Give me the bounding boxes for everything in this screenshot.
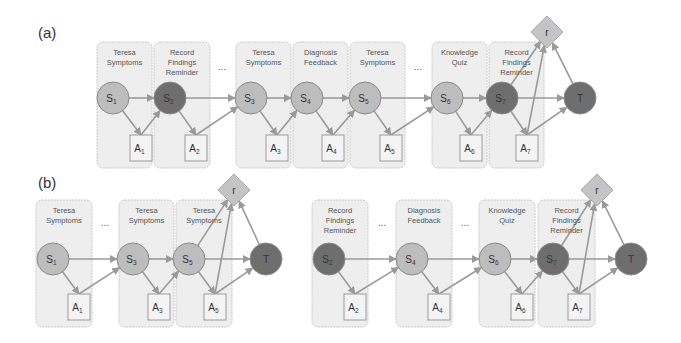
- column-title: Knowledge: [488, 206, 525, 215]
- dbn-diagram: (a)TeresaSymptomsRecordFindingsReminderT…: [0, 0, 681, 343]
- ellipsis: ...: [218, 61, 226, 72]
- column-title: Teresa: [193, 206, 216, 215]
- state-label-T: T: [577, 93, 583, 104]
- column-title: Findings: [326, 216, 355, 225]
- panel-label: (b): [38, 174, 56, 191]
- column-title: Findings: [168, 58, 197, 67]
- column-title: Symptoms: [186, 216, 222, 225]
- column-title: Findings: [552, 216, 581, 225]
- column-title: Teresa: [135, 206, 158, 215]
- column-title: Record: [554, 206, 578, 215]
- column-title: Reminder: [324, 226, 357, 235]
- column-title: Symptoms: [360, 58, 396, 67]
- column-title: Record: [170, 48, 194, 57]
- column-title: Teresa: [366, 48, 389, 57]
- column-title: Record: [504, 48, 528, 57]
- column-title: Reminder: [166, 68, 199, 77]
- column-title: Reminder: [500, 68, 533, 77]
- ellipsis: ...: [461, 217, 469, 228]
- edge-T-to-r: [602, 201, 624, 245]
- state-label-T: T: [628, 254, 634, 265]
- column-title: Symptoms: [246, 58, 282, 67]
- panel-label: (a): [38, 24, 56, 41]
- column-title: Teresa: [252, 48, 275, 57]
- edge-T-to-r: [552, 43, 573, 84]
- column-title: Symptoms: [46, 216, 82, 225]
- column-title: Symptoms: [129, 216, 165, 225]
- column-title: Feedback: [304, 58, 337, 67]
- column-title: Quiz: [499, 216, 515, 225]
- column-title: Diagnosis: [304, 48, 337, 57]
- column-title: Feedback: [408, 216, 441, 225]
- column-title: Diagnosis: [408, 206, 441, 215]
- ellipsis: ...: [378, 217, 386, 228]
- ellipsis: ...: [101, 217, 109, 228]
- column-title: Symptoms: [107, 58, 143, 67]
- column-title: Teresa: [113, 48, 136, 57]
- column-title: Record: [328, 206, 352, 215]
- state-label-T: T: [263, 254, 269, 265]
- column-title: Teresa: [53, 206, 76, 215]
- column-title: Findings: [502, 58, 531, 67]
- ellipsis: ...: [414, 61, 422, 72]
- column-title: Reminder: [550, 226, 583, 235]
- edge-T-to-r: [239, 201, 259, 245]
- column-title: Quiz: [452, 58, 468, 67]
- column-title: Knowledge: [441, 48, 478, 57]
